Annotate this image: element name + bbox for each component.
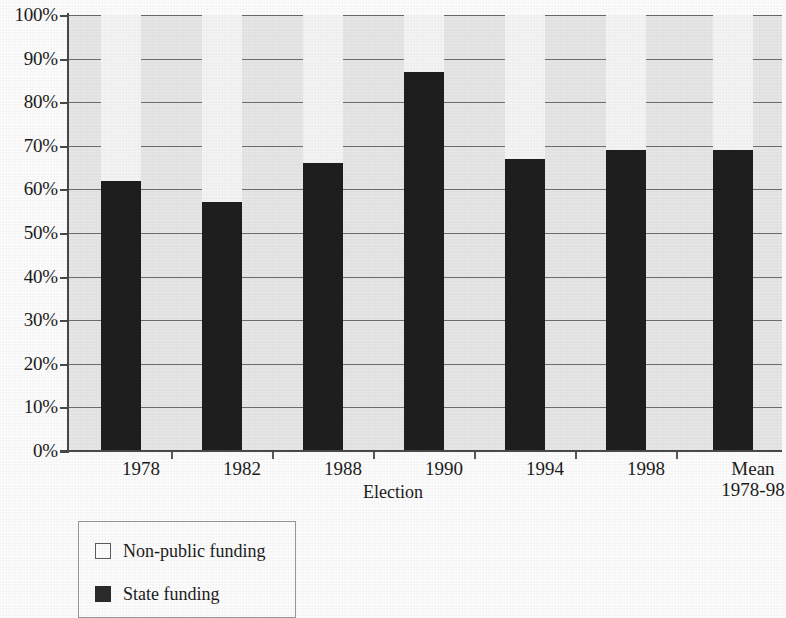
y-axis-tick-label: 20% (2, 354, 58, 373)
bar-column[interactable] (505, 15, 545, 451)
legend-label-non-public-funding: Non-public funding (123, 542, 265, 560)
plot-area (68, 15, 782, 451)
y-axis-tick (60, 189, 69, 191)
bar-segment-state-funding[interactable] (303, 163, 343, 451)
y-axis-tick (60, 15, 69, 17)
y-axis-tick-label: 40% (2, 267, 58, 286)
bar-segment-state-funding[interactable] (404, 72, 444, 451)
bar-segment-non-public-funding[interactable] (101, 15, 141, 181)
y-axis-tick-label: 10% (2, 397, 58, 416)
y-axis-tick-label: 0% (2, 441, 58, 460)
legend-swatch-non-public-funding-icon (95, 543, 111, 559)
bar-column[interactable] (404, 15, 444, 451)
y-axis-tick-labels: 0%10%20%30%40%50%60%70%80%90%100% (0, 0, 58, 618)
legend-item-non-public-funding[interactable]: Non-public funding (95, 542, 265, 560)
y-axis-tick (60, 277, 69, 279)
y-axis-tick (60, 407, 69, 409)
y-axis-tick-label: 30% (2, 310, 58, 329)
y-axis-tick (60, 59, 69, 61)
y-axis-tick (60, 146, 69, 148)
x-axis-title: Election (0, 482, 786, 502)
bar-segment-state-funding[interactable] (713, 150, 753, 451)
bar-segment-non-public-funding[interactable] (713, 15, 753, 150)
bar-segment-state-funding[interactable] (606, 150, 646, 451)
y-axis-tick-label: 50% (2, 223, 58, 242)
legend-box: Non-public funding State funding (78, 521, 296, 618)
bar-segment-non-public-funding[interactable] (303, 15, 343, 163)
y-axis-tick (60, 233, 69, 235)
bar-column[interactable] (606, 15, 646, 451)
y-axis-tick-label: 70% (2, 136, 58, 155)
bar-segment-non-public-funding[interactable] (505, 15, 545, 159)
bar-segment-non-public-funding[interactable] (202, 15, 242, 202)
y-axis-tick (60, 102, 69, 104)
y-axis-tick (60, 364, 69, 366)
bar-segment-non-public-funding[interactable] (606, 15, 646, 150)
legend-label-state-funding: State funding (123, 585, 220, 603)
y-axis-tick-label: 60% (2, 179, 58, 198)
bar-segment-state-funding[interactable] (505, 159, 545, 451)
bar-segment-state-funding[interactable] (101, 181, 141, 451)
x-axis-category-label: 1998 (586, 458, 706, 479)
bar-segment-state-funding[interactable] (202, 202, 242, 451)
stacked-bar-chart-figure: 0%10%20%30%40%50%60%70%80%90%100% 197819… (0, 0, 786, 618)
y-axis-tick-label: 90% (2, 49, 58, 68)
y-axis-tick-label: 80% (2, 92, 58, 111)
bar-column[interactable] (303, 15, 343, 451)
y-axis-tick (60, 451, 69, 453)
y-axis-tick-label: 100% (2, 5, 58, 24)
bar-column[interactable] (713, 15, 753, 451)
legend-item-state-funding[interactable]: State funding (95, 585, 220, 603)
legend-swatch-state-funding-icon (95, 586, 111, 602)
bar-column[interactable] (101, 15, 141, 451)
y-axis-tick (60, 320, 69, 322)
x-axis-line (60, 450, 782, 452)
bar-segment-non-public-funding[interactable] (404, 15, 444, 72)
bar-column[interactable] (202, 15, 242, 451)
